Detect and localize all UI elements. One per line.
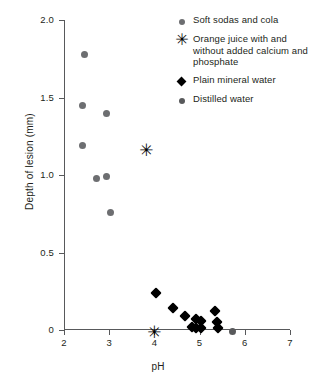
data-point-circle xyxy=(229,328,236,335)
data-point-circle xyxy=(81,51,88,58)
y-tick-mark xyxy=(59,175,64,176)
x-tick-mark xyxy=(245,330,246,335)
scatter-chart-figure: 00.51.01.52.0 234567 ✳✳ Depth of lesion … xyxy=(0,0,316,383)
data-point-asterisk: ✳ xyxy=(138,142,154,158)
y-axis-line xyxy=(64,20,65,330)
data-point-diamond xyxy=(150,287,161,298)
x-tick-mark xyxy=(290,330,291,335)
data-point-circle xyxy=(79,102,86,109)
x-tick-mark xyxy=(109,330,110,335)
x-tick-label: 6 xyxy=(230,337,260,348)
data-point-circle xyxy=(93,175,100,182)
y-tick-mark xyxy=(59,20,64,21)
legend-label: Orange juice with and without added calc… xyxy=(193,33,316,68)
legend-entry: Distilled water xyxy=(176,93,316,106)
x-axis-title: pH xyxy=(0,361,316,372)
y-tick-label: 2.0 xyxy=(14,14,54,25)
x-tick-label: 7 xyxy=(275,337,305,348)
legend-circle-icon xyxy=(176,16,190,27)
data-point-circle xyxy=(103,173,110,180)
legend-entry: Plain mineral water xyxy=(176,74,316,87)
data-point-circle xyxy=(79,142,86,149)
legend-label: Soft sodas and cola xyxy=(193,14,316,26)
x-tick-label: 5 xyxy=(185,337,215,348)
x-tick-mark xyxy=(64,330,65,335)
data-point-diamond xyxy=(210,306,221,317)
data-point-circle xyxy=(103,110,110,117)
y-tick-mark xyxy=(59,253,64,254)
x-axis-line xyxy=(64,329,290,330)
legend-label: Distilled water xyxy=(193,93,316,105)
y-axis-title: Depth of lesion (mm) xyxy=(24,72,35,252)
legend-asterisk-icon: ✳ xyxy=(176,35,190,46)
diamond-icon xyxy=(177,76,187,86)
legend-diamond-icon xyxy=(176,76,190,87)
data-point-asterisk: ✳ xyxy=(146,324,162,340)
circle-icon xyxy=(179,19,185,25)
y-tick-mark xyxy=(59,98,64,99)
chart-legend: Soft sodas and cola✳Orange juice with an… xyxy=(176,14,316,112)
legend-entry: ✳Orange juice with and without added cal… xyxy=(176,33,316,68)
x-tick-label: 3 xyxy=(94,337,124,348)
legend-entry: Soft sodas and cola xyxy=(176,14,316,27)
asterisk-icon: ✳ xyxy=(175,32,189,48)
y-tick-label: 0 xyxy=(14,324,54,335)
data-point-circle xyxy=(107,209,114,216)
x-tick-label: 2 xyxy=(49,337,79,348)
data-point-diamond xyxy=(179,310,190,321)
circle-icon xyxy=(179,98,185,104)
legend-label: Plain mineral water xyxy=(193,74,316,86)
data-point-diamond xyxy=(168,303,179,314)
legend-circle-icon xyxy=(176,95,190,106)
